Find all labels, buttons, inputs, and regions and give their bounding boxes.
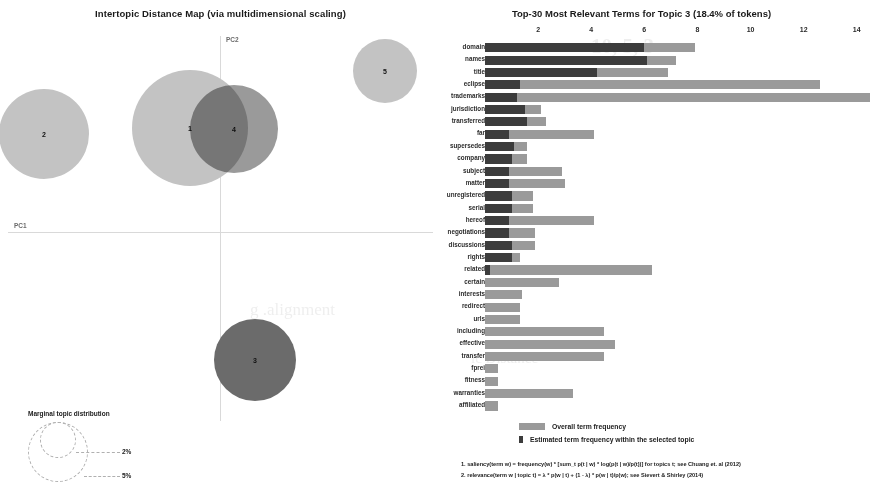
- barchart-legend: Overall term frequency Estimated term fr…: [519, 420, 879, 446]
- barchart-title: Top-30 Most Relevant Terms for Topic 3 (…: [421, 8, 862, 19]
- bar-term-label: rights: [468, 253, 486, 260]
- topic-circle-2[interactable]: 2: [0, 89, 89, 179]
- bar-term-label: effective: [459, 339, 485, 346]
- mtd-ring-inner: [40, 422, 76, 458]
- bar-term-label: fitness: [465, 376, 485, 383]
- bar-topic-frequency: [485, 167, 509, 176]
- bar-term-label: far: [477, 129, 485, 136]
- bar-topic-frequency: [485, 204, 512, 213]
- bar-topic-frequency: [485, 191, 512, 200]
- barchart-footnotes: 1. saliency(term w) = frequency(w) * [su…: [461, 459, 881, 481]
- bar-term-label: subject: [463, 167, 485, 174]
- bar-term-label: redirect: [462, 302, 485, 309]
- bar-topic-frequency: [485, 93, 517, 102]
- topic-circle-3[interactable]: 3: [214, 319, 296, 401]
- bar-row[interactable]: names: [441, 54, 882, 66]
- bar-term-label: company: [457, 154, 485, 161]
- bar-topic-frequency: [485, 43, 644, 52]
- bar-topic-frequency: [485, 154, 512, 163]
- bar-row[interactable]: warranties: [441, 388, 882, 400]
- intertopic-distance-map-panel: Intertopic Distance Map (via multidimens…: [0, 0, 441, 487]
- bar-term-label: title: [474, 68, 485, 75]
- bar-overall-frequency: [485, 364, 498, 373]
- x-tick-8: 8: [695, 26, 699, 33]
- x-tick-14: 14: [853, 26, 861, 33]
- bar-row[interactable]: redirect: [441, 301, 882, 313]
- bar-term-label: certain: [464, 278, 485, 285]
- bar-row[interactable]: subject: [441, 166, 882, 178]
- bar-row[interactable]: hereof: [441, 215, 882, 227]
- topic-circle-label-3: 3: [253, 357, 257, 364]
- bar-topic-frequency: [485, 142, 514, 151]
- bar-row[interactable]: fitness: [441, 375, 882, 387]
- mtd-legend-title: Marginal topic distribution: [28, 410, 110, 417]
- topic-circle-label-5: 5: [383, 68, 387, 75]
- bar-row[interactable]: supersedes: [441, 141, 882, 153]
- bar-overall-frequency: [485, 315, 520, 324]
- bar-term-label: supersedes: [450, 142, 485, 149]
- bar-row[interactable]: serial: [441, 203, 882, 215]
- bar-overall-frequency: [485, 377, 498, 386]
- bar-row[interactable]: jurisdiction: [441, 104, 882, 116]
- barchart-x-axis-ticks: 2468101214: [441, 26, 882, 38]
- mtd-tick-2pct: [76, 452, 120, 453]
- topic-circle-5[interactable]: 5: [353, 39, 417, 103]
- bar-row[interactable]: transferred: [441, 116, 882, 128]
- bar-row[interactable]: domain: [441, 42, 882, 54]
- bar-row[interactable]: related: [441, 264, 882, 276]
- bar-row[interactable]: transfer: [441, 351, 882, 363]
- bar-term-label: negotiations: [448, 228, 485, 235]
- bar-row[interactable]: affiliated: [441, 400, 882, 412]
- bar-topic-frequency: [485, 179, 509, 188]
- bar-row[interactable]: unregistered: [441, 190, 882, 202]
- ghost-text-overlay: g .alignment: [250, 300, 335, 320]
- mtd-pct-0: 2%: [122, 448, 131, 455]
- mtd-tick-5pct: [84, 476, 120, 477]
- legend-label-topic: Estimated term frequency within the sele…: [530, 436, 694, 443]
- x-tick-4: 4: [589, 26, 593, 33]
- bar-overall-frequency: [485, 93, 870, 102]
- bar-term-label: discussions: [449, 241, 485, 248]
- bar-row[interactable]: urls: [441, 314, 882, 326]
- bar-row[interactable]: title: [441, 67, 882, 79]
- bar-overall-frequency: [485, 389, 573, 398]
- bar-term-label: including: [457, 327, 485, 334]
- marginal-topic-distribution-legend: Marginal topic distribution 2% 5%: [14, 410, 174, 485]
- pyldavis-visualization: Intertopic Distance Map (via multidimens…: [0, 0, 882, 487]
- bar-term-label: transferred: [452, 117, 485, 124]
- legend-item-overall: Overall term frequency: [519, 420, 879, 433]
- x-tick-12: 12: [800, 26, 808, 33]
- mtd-pct-1: 5%: [122, 472, 131, 479]
- legend-item-topic: Estimated term frequency within the sele…: [519, 433, 879, 446]
- bar-row[interactable]: eclipse: [441, 79, 882, 91]
- bar-term-label: eclipse: [464, 80, 485, 87]
- bar-row[interactable]: company: [441, 153, 882, 165]
- legend-swatch-topic: [519, 436, 523, 443]
- bar-row[interactable]: matter: [441, 178, 882, 190]
- bar-row[interactable]: discussions: [441, 240, 882, 252]
- bar-term-label: urls: [473, 315, 485, 322]
- topic-circle-4[interactable]: 4: [190, 85, 278, 173]
- bar-term-label: domain: [463, 43, 485, 50]
- bar-row[interactable]: fprei: [441, 363, 882, 375]
- bar-topic-frequency: [485, 130, 509, 139]
- bar-row[interactable]: negotiations: [441, 227, 882, 239]
- bar-term-label: matter: [466, 179, 485, 186]
- bar-overall-frequency: [485, 327, 604, 336]
- footnote-saliency: 1. saliency(term w) = frequency(w) * [su…: [461, 459, 881, 470]
- mds-title: Intertopic Distance Map (via multidimens…: [0, 8, 441, 19]
- bar-term-label: names: [465, 55, 485, 62]
- bar-topic-frequency: [485, 228, 509, 237]
- bar-overall-frequency: [485, 265, 652, 274]
- bar-row[interactable]: trademarks: [441, 91, 882, 103]
- bar-row[interactable]: far: [441, 128, 882, 140]
- bar-row[interactable]: effective: [441, 338, 882, 350]
- top-terms-barchart-panel: Top-30 Most Relevant Terms for Topic 3 (…: [441, 0, 882, 487]
- bar-topic-frequency: [485, 265, 490, 274]
- mds-pc1-label: PC1: [14, 222, 27, 229]
- bar-row[interactable]: interests: [441, 289, 882, 301]
- legend-label-overall: Overall term frequency: [552, 423, 626, 430]
- bar-row[interactable]: including: [441, 326, 882, 338]
- bar-row[interactable]: rights: [441, 252, 882, 264]
- bar-row[interactable]: certain: [441, 277, 882, 289]
